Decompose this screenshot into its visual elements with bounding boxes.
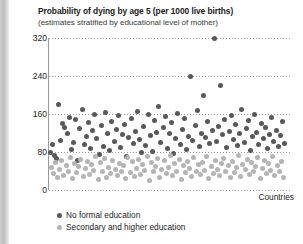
data-point: [230, 159, 235, 164]
data-point: [130, 159, 135, 164]
data-point: [150, 149, 155, 154]
x-axis-label: Countries: [219, 192, 294, 202]
data-point: [153, 164, 158, 169]
data-point: [55, 175, 60, 180]
gridline: [49, 76, 292, 77]
data-point: [91, 168, 96, 173]
data-point: [265, 146, 270, 151]
data-point: [67, 115, 72, 120]
data-point: [231, 137, 236, 142]
data-point: [221, 156, 226, 161]
data-point: [172, 161, 177, 166]
data-point: [205, 119, 210, 124]
data-point: [202, 168, 207, 173]
data-point: [102, 156, 107, 161]
data-point: [50, 142, 55, 147]
data-point: [148, 133, 153, 138]
y-axis-tick-label: 320: [17, 33, 47, 43]
y-axis-tick-label: 160: [17, 109, 47, 119]
data-point: [104, 175, 109, 180]
data-point: [204, 154, 209, 159]
data-point: [261, 136, 266, 141]
data-point: [280, 119, 285, 124]
data-point: [185, 159, 190, 164]
data-point: [246, 118, 251, 123]
data-point: [229, 113, 234, 118]
data-point: [162, 158, 167, 163]
data-point: [173, 136, 178, 141]
data-point: [90, 128, 95, 133]
data-point: [188, 74, 193, 79]
data-point: [139, 150, 144, 155]
data-point: [203, 135, 208, 140]
data-point: [183, 170, 188, 175]
data-point: [248, 148, 253, 153]
data-point: [118, 145, 123, 150]
data-point: [207, 141, 212, 146]
data-point: [84, 134, 89, 139]
data-point: [74, 170, 79, 175]
chart-page: Probability of dying by age 5 (per 1000 …: [9, 0, 303, 244]
legend-item-secondary-and-higher-education: Secondary and higher education: [57, 221, 287, 233]
data-point: [100, 169, 105, 174]
data-point: [73, 117, 78, 122]
data-point: [92, 112, 97, 117]
data-point: [129, 116, 134, 121]
data-point: [163, 114, 168, 119]
data-point: [227, 129, 232, 134]
data-point: [158, 140, 163, 145]
data-point: [243, 167, 248, 172]
data-point: [109, 119, 114, 124]
data-point: [219, 161, 224, 166]
data-point: [68, 155, 73, 160]
data-point: [77, 126, 82, 131]
legend-item-no-formal-education: No formal education: [57, 209, 287, 221]
data-point: [113, 167, 118, 172]
data-point: [226, 163, 231, 168]
data-point: [213, 158, 218, 163]
data-point: [181, 163, 186, 168]
chart-subtitle: (estimates stratified by educational lev…: [38, 17, 288, 28]
data-point: [253, 164, 258, 169]
data-point: [151, 169, 156, 174]
data-point: [135, 109, 140, 114]
data-point: [64, 163, 69, 168]
data-point: [142, 168, 147, 173]
data-point: [206, 176, 211, 181]
data-point: [53, 160, 58, 165]
data-point: [120, 132, 125, 137]
data-point: [244, 126, 249, 131]
data-point: [233, 122, 238, 127]
data-point: [134, 166, 139, 171]
data-point: [59, 158, 64, 163]
data-point: [133, 129, 138, 134]
data-point: [116, 113, 121, 118]
data-point: [132, 174, 137, 179]
data-point: [209, 164, 214, 169]
data-point: [115, 173, 120, 178]
data-point: [99, 123, 104, 128]
data-point: [189, 174, 194, 179]
data-point: [212, 36, 217, 41]
y-axis-tick-label: 0: [17, 185, 47, 195]
y-axis-tick-label: 80: [17, 147, 47, 157]
data-point: [137, 137, 142, 142]
data-point: [146, 112, 151, 117]
data-point: [195, 108, 200, 113]
data-point: [131, 141, 136, 146]
data-point: [107, 148, 112, 153]
data-point: [200, 160, 205, 165]
data-point: [267, 132, 272, 137]
data-point: [252, 112, 257, 117]
data-point: [184, 147, 189, 152]
data-point: [123, 176, 128, 181]
data-point: [216, 124, 221, 129]
data-point: [266, 161, 271, 166]
legend-label: No formal education: [66, 210, 140, 220]
data-point: [56, 102, 61, 107]
data-point: [232, 170, 237, 175]
data-point: [250, 134, 255, 139]
data-point: [272, 173, 277, 178]
gridline: [49, 38, 292, 39]
data-point: [198, 172, 203, 177]
